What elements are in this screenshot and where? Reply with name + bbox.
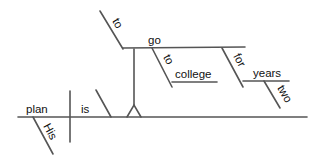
word-to-prep: to [161,52,176,66]
modifier-line-two [264,81,280,108]
word-to-infinitive: to [110,16,125,30]
word-two: two [275,83,294,105]
word-for: for [231,51,248,69]
word-years: years [253,67,281,79]
word-college: college [175,68,211,80]
complement-slash [96,90,111,117]
sentence-diagram: plan is His to go to college for years t… [0,0,319,168]
word-go: go [148,34,161,46]
word-plan: plan [26,103,48,115]
pedestal-base [127,105,141,117]
infinitive-verb-line [123,47,245,48]
word-is: is [81,103,90,115]
